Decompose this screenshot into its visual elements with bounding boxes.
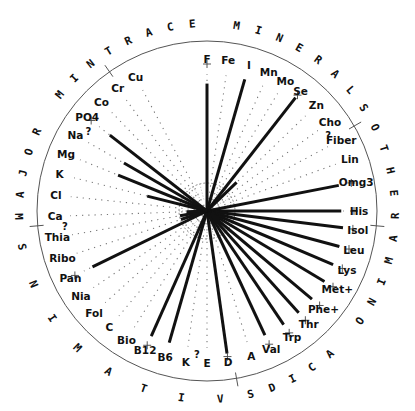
value-bar — [207, 98, 296, 211]
spoke-guide — [93, 214, 202, 287]
spoke-label: I — [247, 59, 251, 71]
group-divider — [370, 225, 384, 226]
unknown-marker: ? — [86, 126, 92, 137]
value-bar — [124, 163, 207, 211]
spoke-label: Thia — [45, 231, 70, 243]
spoke-label: Pan — [59, 272, 81, 284]
group-divider — [30, 225, 44, 226]
spoke-label: His — [350, 205, 369, 217]
group-label-char: E — [387, 189, 401, 197]
group-label-char: C — [166, 20, 175, 34]
group-label-char: O — [353, 314, 368, 327]
spoke-label: Phe+ — [308, 303, 339, 315]
group-label-char: E — [189, 17, 197, 30]
unknown-marker: ? — [194, 349, 200, 360]
group-label-char: A — [102, 364, 115, 379]
group-label-char: N — [365, 296, 380, 308]
spoke-label: Mn — [260, 66, 278, 78]
spoke-label: Ca — [48, 210, 63, 222]
group-label-char: S — [15, 242, 29, 251]
group-label-char: H — [383, 166, 397, 175]
spoke-label: Fe — [221, 54, 235, 66]
spoke-label: Lin — [341, 153, 359, 165]
value-bar — [92, 211, 207, 267]
group-label-char: T — [138, 381, 149, 396]
group-label-char: M — [71, 341, 85, 355]
group-label-char: A — [387, 234, 401, 243]
group-label-char: O — [368, 121, 383, 133]
spoke-label: Met+ — [322, 283, 353, 295]
unknown-marker: ? — [62, 221, 68, 232]
spoke-label: Se — [293, 85, 308, 97]
group-label-char: N — [274, 31, 285, 46]
group-label-char: S — [356, 101, 371, 114]
group-label-char: I — [253, 24, 263, 38]
group-label-char: N — [84, 57, 97, 71]
group-label-char: E — [293, 40, 305, 55]
group-label-char: R — [389, 212, 402, 219]
group-label-char: I — [67, 71, 81, 85]
spoke-guide — [134, 216, 203, 327]
spoke-label: Thr — [299, 318, 320, 330]
spoke-label: Trp — [283, 331, 302, 343]
spoke-label: Zn — [309, 99, 324, 111]
spoke-label: Cl — [50, 189, 61, 201]
group-label-char: A — [13, 190, 27, 198]
group-label-char: S — [246, 387, 255, 401]
unknown-marker: ? — [325, 130, 331, 141]
spoke-label: Omg3 — [339, 176, 374, 188]
spoke-label: C — [105, 321, 113, 333]
spoke-label: Fol — [85, 307, 103, 319]
group-label-char: V — [217, 392, 225, 405]
group-label-char: I — [374, 276, 389, 287]
spoke-guide — [210, 94, 277, 206]
spoke-guide — [209, 86, 262, 206]
spoke-label: B12 — [134, 344, 157, 356]
spoke-label: Co — [94, 96, 109, 108]
group-label-char: R — [30, 126, 45, 138]
spoke-guide — [126, 100, 203, 206]
value-bar — [151, 211, 207, 336]
group-label-char: O — [22, 146, 37, 157]
group-label-char: R — [311, 53, 324, 68]
spoke-label: Ribo — [49, 252, 75, 264]
value-bar — [207, 211, 299, 313]
spoke-label: E — [203, 357, 210, 369]
spoke-label: Mg — [57, 148, 75, 160]
spoke-label: Cr — [111, 82, 125, 94]
nutrient-radial-chart: FFeIMnMoSeZnChoFiber?LinOmg3HisIsolLeuLy… — [0, 0, 415, 411]
group-label-char: A — [323, 347, 337, 361]
group-label-char: M — [382, 255, 396, 265]
spoke-label: Lys — [337, 264, 356, 276]
spoke-label: Isol — [347, 224, 368, 236]
spoke-label: K — [55, 168, 64, 180]
group-divider — [235, 373, 237, 387]
spoke-label: Cu — [128, 71, 143, 83]
spoke-guide — [208, 75, 226, 205]
value-bar — [118, 175, 207, 211]
spoke-label: Nia — [71, 290, 90, 302]
group-label-char: L — [343, 83, 357, 97]
spoke-label: B6 — [157, 351, 172, 363]
value-bar — [169, 211, 207, 343]
spoke-label: K — [182, 356, 191, 368]
spoke-label: F — [203, 53, 210, 65]
spoke-label: Bio — [117, 334, 136, 346]
spoke-label: Mo — [276, 75, 294, 87]
spoke-label: Val — [262, 343, 280, 355]
spoke-label: Leu — [343, 244, 364, 256]
spoke-label: A — [247, 350, 256, 362]
group-label-char: M — [232, 19, 241, 33]
group-label-char: N — [26, 279, 41, 290]
group-label-char: A — [328, 67, 342, 81]
group-label-char: I — [287, 372, 299, 387]
spoke-label: PO4 — [75, 111, 99, 123]
value-bar — [207, 185, 339, 211]
group-label-char: J — [16, 169, 30, 178]
value-bars — [92, 79, 342, 353]
group-label-char: I — [177, 391, 185, 405]
group-label-char: M — [12, 213, 25, 220]
group-label-char: T — [377, 143, 392, 154]
spoke-label: D — [224, 356, 233, 368]
group-label-char: M — [53, 88, 68, 102]
